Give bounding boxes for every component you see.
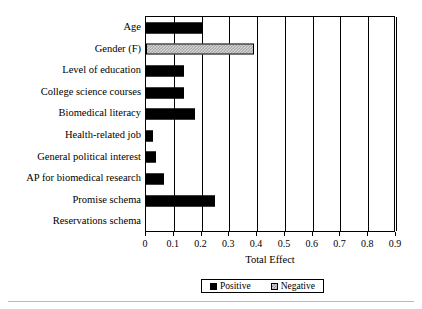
x-axis-tick-labels: 00.10.20.30.40.50.60.70.80.9 — [145, 237, 395, 251]
category-label: Gender (F) — [95, 38, 141, 60]
bar-row — [146, 39, 394, 61]
bar — [146, 65, 184, 76]
x-tick-label: 0.3 — [213, 237, 243, 250]
x-tick-label: 0.7 — [324, 237, 354, 250]
x-tick-label: 0.4 — [241, 237, 271, 250]
category-label: Promise schema — [72, 189, 141, 211]
category-label: Reservations schema — [53, 210, 141, 232]
x-tick — [367, 232, 368, 236]
bar-row — [146, 103, 394, 125]
x-tick — [312, 232, 313, 236]
legend-label: Negative — [281, 281, 315, 291]
bar-row — [146, 168, 394, 190]
x-tick — [201, 232, 202, 236]
bar-row — [146, 82, 394, 104]
plot-area — [145, 16, 395, 232]
bar-rows — [146, 17, 394, 231]
chart-legend: PositiveNegative — [201, 279, 324, 293]
bar — [146, 22, 203, 33]
bar — [146, 109, 195, 120]
x-tick — [395, 232, 396, 236]
bar-row — [146, 190, 394, 212]
bar-row — [146, 147, 394, 169]
bar — [146, 195, 215, 206]
category-label: Health-related job — [65, 124, 141, 146]
category-label: Level of education — [62, 59, 141, 81]
category-axis-labels: AgeGender (F)Level of educationCollege s… — [0, 16, 141, 232]
legend-entry: Negative — [271, 281, 315, 291]
x-tick — [173, 232, 174, 236]
x-tick — [339, 232, 340, 236]
x-tick-label: 0.6 — [297, 237, 327, 250]
category-label: Biomedical literacy — [58, 102, 141, 124]
legend-label: Positive — [220, 281, 251, 291]
legend-swatch-positive — [210, 283, 217, 290]
bar — [146, 130, 153, 141]
category-label: College science courses — [41, 81, 141, 103]
bar-row — [146, 17, 394, 39]
x-tick-label: 0.1 — [158, 237, 188, 250]
legend-swatch-negative — [271, 283, 278, 290]
x-tick-label: 0 — [130, 237, 160, 250]
bar-row — [146, 211, 394, 233]
chart-figure: AgeGender (F)Level of educationCollege s… — [0, 0, 422, 309]
category-label: AP for biomedical research — [26, 167, 141, 189]
x-tick — [284, 232, 285, 236]
bar-row — [146, 60, 394, 82]
page-separator-rule — [8, 301, 414, 302]
legend-entry: Positive — [210, 281, 251, 291]
category-label: Age — [124, 16, 142, 38]
x-tick-label: 0.8 — [352, 237, 382, 250]
bar — [146, 44, 254, 55]
x-tick-label: 0.2 — [186, 237, 216, 250]
bar-row — [146, 125, 394, 147]
bar — [146, 87, 184, 98]
category-label: General political interest — [37, 146, 141, 168]
x-tick — [145, 232, 146, 236]
x-tick-label: 0.9 — [380, 237, 410, 250]
x-tick — [256, 232, 257, 236]
x-tick-label: 0.5 — [269, 237, 299, 250]
bar — [146, 173, 164, 184]
gridline-0.9 — [396, 17, 397, 231]
x-axis-title: Total Effect — [145, 254, 395, 265]
bar — [146, 152, 156, 163]
x-tick — [228, 232, 229, 236]
